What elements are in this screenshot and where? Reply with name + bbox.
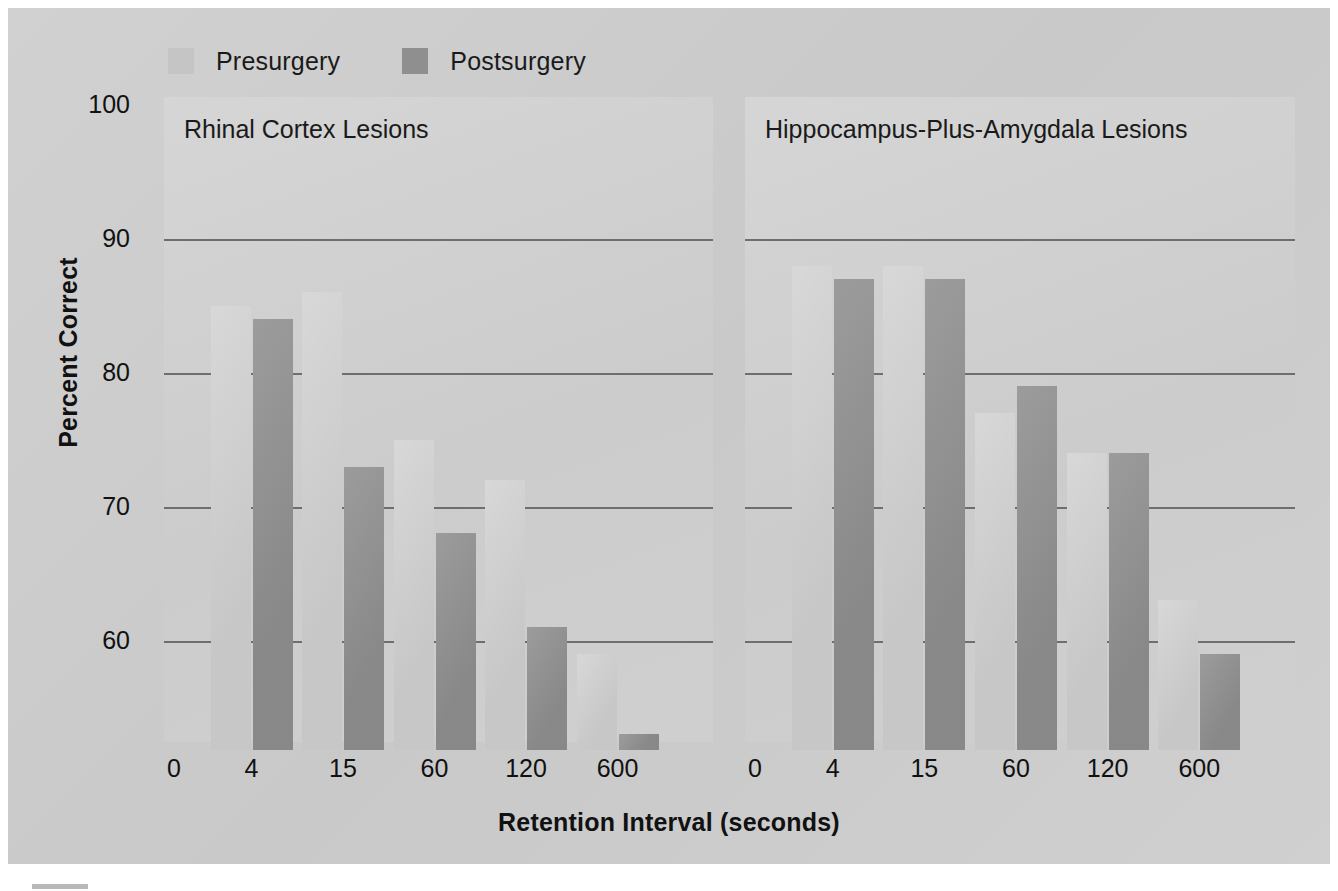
bar-right-15s-presurgery <box>883 266 923 750</box>
bar-left-4s-postsurgery <box>253 319 293 750</box>
bar-right-600s-presurgery <box>1158 600 1198 750</box>
bar-left-600s-presurgery <box>577 654 617 750</box>
x-tick-label-right-600: 600 <box>1178 754 1220 783</box>
bar-left-15s-postsurgery <box>344 467 384 750</box>
bar-left-60s-presurgery <box>394 440 434 750</box>
bar-left-120s-postsurgery <box>527 627 567 750</box>
figure-root: Presurgery Postsurgery Percent Correct 1… <box>0 0 1338 891</box>
bar-left-4s-presurgery <box>211 306 251 750</box>
plot-area-right <box>745 97 1295 742</box>
legend-swatch-presurgery-icon <box>168 48 194 74</box>
chart-canvas: Presurgery Postsurgery Percent Correct 1… <box>8 8 1330 864</box>
panel-title-hippocampus-plus-amygdala: Hippocampus-Plus-Amygdala Lesions <box>765 115 1187 144</box>
x-tick-label-left-0: 0 <box>167 754 181 783</box>
bar-right-120s-postsurgery <box>1109 453 1149 750</box>
x-tick-label-left-4: 4 <box>245 754 259 783</box>
bar-right-4s-presurgery <box>792 266 832 750</box>
legend-entry-presurgery: Presurgery <box>168 47 340 76</box>
panel-hippocampus-plus-amygdala: Hippocampus-Plus-Amygdala Lesions <box>745 97 1295 742</box>
bar-right-600s-postsurgery <box>1200 654 1240 750</box>
x-tick-label-left-120: 120 <box>505 754 547 783</box>
x-axis-tick-labels-left: 041560120600 <box>164 750 713 794</box>
y-axis-tick-labels: 10090807060 <box>38 8 130 864</box>
panel-title-rhinal-cortex: Rhinal Cortex Lesions <box>184 115 429 144</box>
x-tick-label-right-15: 15 <box>910 754 938 783</box>
bar-right-15s-postsurgery <box>925 279 965 750</box>
x-tick-label-left-15: 15 <box>329 754 357 783</box>
legend-swatch-postsurgery-icon <box>402 48 428 74</box>
panel-rhinal-cortex: Rhinal Cortex Lesions <box>164 97 713 742</box>
bar-right-60s-postsurgery <box>1017 386 1057 750</box>
x-axis-tick-labels-right: 041560120600 <box>745 750 1295 794</box>
y-tick-label-90: 90 <box>70 224 130 253</box>
x-tick-label-right-60: 60 <box>1002 754 1030 783</box>
x-tick-label-left-600: 600 <box>597 754 639 783</box>
y-tick-label-70: 70 <box>70 492 130 521</box>
legend-label-presurgery: Presurgery <box>216 47 340 76</box>
x-tick-label-right-120: 120 <box>1087 754 1129 783</box>
bar-left-120s-presurgery <box>485 480 525 750</box>
bar-left-60s-postsurgery <box>436 533 476 750</box>
bar-left-15s-presurgery <box>302 292 342 750</box>
x-tick-label-right-4: 4 <box>826 754 840 783</box>
legend-entry-postsurgery: Postsurgery <box>402 47 586 76</box>
plot-area-left <box>164 97 713 742</box>
bar-right-60s-presurgery <box>975 413 1015 750</box>
y-tick-label-60: 60 <box>70 626 130 655</box>
x-tick-label-right-0: 0 <box>748 754 762 783</box>
bar-right-120s-presurgery <box>1067 453 1107 750</box>
footer-mark <box>32 884 88 889</box>
y-tick-label-100: 100 <box>70 90 130 119</box>
bar-left-600s-postsurgery <box>619 734 659 750</box>
legend-label-postsurgery: Postsurgery <box>450 47 586 76</box>
chart-legend: Presurgery Postsurgery <box>168 46 586 76</box>
x-axis-label: Retention Interval (seconds) <box>8 808 1330 837</box>
bar-right-4s-postsurgery <box>834 279 874 750</box>
x-tick-label-left-60: 60 <box>421 754 449 783</box>
y-tick-label-80: 80 <box>70 358 130 387</box>
